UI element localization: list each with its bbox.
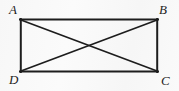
- vertex-label-d: D: [9, 73, 18, 86]
- vertex-label-b: B: [159, 3, 167, 16]
- geometry-figure: A B C D: [0, 0, 179, 91]
- figure-canvas: [0, 0, 179, 91]
- vertex-label-a: A: [9, 3, 17, 16]
- vertex-label-c: C: [161, 74, 170, 87]
